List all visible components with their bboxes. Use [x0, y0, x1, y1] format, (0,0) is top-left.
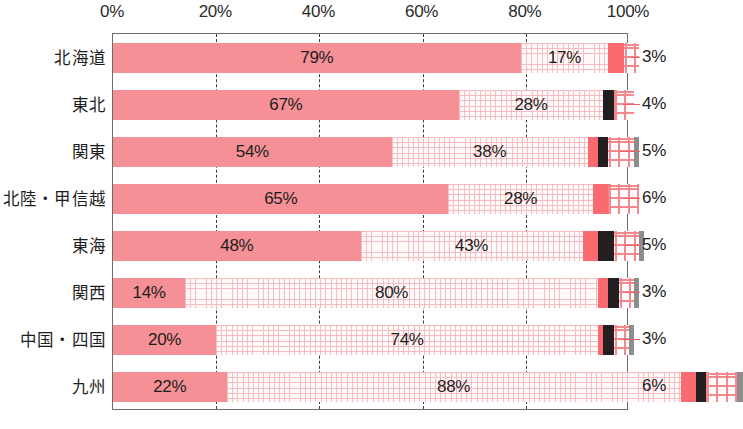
bar-segment	[629, 325, 634, 355]
bar-segment	[619, 278, 634, 308]
x-tick-label: 40%	[302, 2, 335, 22]
callout-leader-line	[631, 57, 640, 58]
callout-leader-line	[625, 292, 640, 293]
callout-value-label: 3%	[642, 282, 666, 302]
bar-value-label: 48%	[220, 236, 253, 256]
bar-segment	[608, 137, 634, 167]
callout-value-label: 3%	[642, 47, 666, 67]
bar-value-label: 67%	[269, 95, 302, 115]
callout-value-label: 6%	[642, 188, 666, 208]
callout-value-label: 5%	[642, 235, 666, 255]
bar-segment	[598, 231, 613, 261]
bar-value-label: 38%	[473, 142, 506, 162]
bar-row: 14%80%	[113, 278, 629, 308]
bar-segment	[583, 231, 598, 261]
callout-value-label: 6%	[642, 376, 666, 396]
bar-value-label: 28%	[504, 189, 537, 209]
bar-segment	[603, 90, 613, 120]
category-label: 中国・四国	[0, 327, 106, 351]
category-label: 東海	[0, 233, 106, 257]
category-label: 関東	[0, 139, 106, 163]
category-label: 北海道	[0, 45, 106, 69]
callout-leader-line	[625, 245, 640, 246]
bar-value-label: 28%	[514, 95, 547, 115]
callout-leader-line	[620, 339, 640, 340]
category-label: 北陸・甲信越	[0, 186, 106, 210]
category-label: 九州	[0, 374, 106, 398]
bar-value-label: 20%	[148, 330, 181, 350]
bar-segment	[614, 90, 635, 120]
bar-value-label: 22%	[153, 377, 186, 397]
bar-row: 79%17%	[113, 43, 629, 73]
x-tick-label: 60%	[405, 2, 438, 22]
bar-value-label: 14%	[133, 283, 166, 303]
bar-segment	[681, 372, 696, 402]
bar-segment	[696, 372, 706, 402]
bar-segment	[598, 278, 608, 308]
bar-value-label: 17%	[548, 48, 581, 68]
x-axis-tick-labels: 0%20%40%60%80%100%	[0, 2, 673, 26]
bar-row: 65%28%	[113, 184, 629, 214]
bar-row: 67%28%	[113, 90, 629, 120]
bar-segment	[608, 278, 618, 308]
callout-value-label: 4%	[642, 94, 666, 114]
bar-segment	[737, 372, 742, 402]
callout-leader-line	[623, 198, 640, 199]
bar-value-label: 43%	[455, 236, 488, 256]
callout-value-label: 5%	[642, 141, 666, 161]
bar-row: 20%74%	[113, 325, 629, 355]
callout-leader-line	[620, 151, 640, 152]
bar-value-label: 74%	[391, 330, 424, 350]
bar-segment	[608, 43, 623, 73]
x-tick-label: 0%	[100, 2, 124, 22]
bar-row: 22%88%	[113, 372, 629, 402]
category-label: 関西	[0, 280, 106, 304]
x-tick-label: 100%	[607, 2, 649, 22]
x-tick-label: 80%	[508, 2, 541, 22]
bar-row: 54%38%	[113, 137, 629, 167]
bar-value-label: 54%	[236, 142, 269, 162]
bar-segment	[634, 137, 639, 167]
plot-area: 79%17%67%28%54%38%65%28%48%43%14%80%20%7…	[112, 33, 628, 410]
bar-value-label: 88%	[437, 377, 470, 397]
bar-segment	[593, 184, 608, 214]
callout-leader-line	[623, 104, 640, 105]
bar-segment	[598, 137, 608, 167]
bar-segment	[634, 278, 639, 308]
bar-segment	[614, 325, 629, 355]
callout-value-label: 3%	[642, 329, 666, 349]
bar-segment	[706, 372, 737, 402]
bar-segment	[614, 231, 640, 261]
bar-segment	[624, 43, 639, 73]
bar-value-label: 65%	[264, 189, 297, 209]
bar-segment	[588, 137, 598, 167]
bar-value-label: 79%	[300, 48, 333, 68]
category-label: 東北	[0, 92, 106, 116]
bar-row: 48%43%	[113, 231, 629, 261]
bar-value-label: 80%	[375, 283, 408, 303]
bar-segment	[603, 325, 613, 355]
x-tick-label: 20%	[199, 2, 232, 22]
bar-segment	[608, 184, 639, 214]
